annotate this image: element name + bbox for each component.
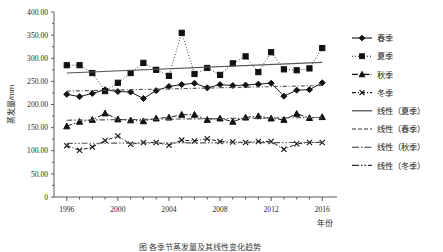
- diamond-marker: [89, 90, 95, 96]
- square-marker: [360, 54, 365, 59]
- square-marker: [243, 54, 248, 59]
- y-tick-label: 250.00: [27, 77, 48, 86]
- y-tick-label: 100.00: [27, 146, 48, 155]
- diamond-marker: [359, 35, 365, 41]
- square-marker: [166, 73, 171, 78]
- legend-label: 冬季: [377, 88, 393, 98]
- diamond-marker: [77, 94, 83, 100]
- cross-marker: [128, 142, 133, 147]
- chart-canvas: 400.00350.00300.00250.00200.00150.00100.…: [0, 0, 443, 252]
- diamond-marker: [140, 95, 146, 101]
- legend-label: 秋季: [377, 70, 393, 80]
- square-marker: [294, 68, 299, 73]
- cross-marker: [281, 147, 286, 152]
- square-marker: [269, 50, 274, 55]
- legend-item-1[interactable]: 春季: [352, 33, 393, 43]
- evaporation-trend-figure: 400.00350.00300.00250.00200.00150.00100.…: [0, 0, 443, 252]
- legend-label: 夏季: [377, 51, 393, 61]
- diamond-marker: [306, 87, 312, 93]
- cross-marker: [102, 138, 107, 143]
- square-marker: [64, 63, 69, 68]
- diamond-marker: [179, 82, 185, 88]
- y-tick-label: 0: [44, 193, 48, 202]
- cross-marker: [179, 138, 184, 143]
- triangle-marker: [294, 111, 300, 117]
- legend-item-7[interactable]: 线性（秋季）: [352, 142, 425, 152]
- legend-item-5[interactable]: 线性（夏季）: [352, 106, 425, 116]
- square-marker: [179, 30, 184, 35]
- square-marker: [102, 88, 107, 93]
- cross-marker: [90, 144, 95, 149]
- square-marker: [77, 63, 82, 68]
- legend-item-6[interactable]: 线性（春季）: [352, 124, 425, 134]
- x-tick-label: 2012: [264, 205, 279, 214]
- diamond-marker: [319, 80, 325, 86]
- figure-caption: 图 各季节蒸发量及其线性变化趋势: [139, 242, 261, 252]
- diamond-marker: [294, 87, 300, 93]
- x-tick-label: 2004: [161, 205, 176, 214]
- legend-item-2[interactable]: 夏季: [352, 51, 393, 61]
- square-marker: [115, 80, 120, 85]
- x-axis-title: 年份: [317, 218, 333, 228]
- y-axis-title: 蒸发量/mm: [6, 84, 16, 124]
- square-marker: [141, 60, 146, 65]
- legend-item-4[interactable]: 冬季: [352, 88, 393, 98]
- square-marker: [230, 61, 235, 66]
- square-marker: [281, 67, 286, 72]
- cross-marker: [115, 133, 120, 138]
- legend-label: 线性（冬季）: [377, 161, 425, 171]
- y-tick-label: 300.00: [27, 54, 48, 63]
- square-marker: [192, 71, 197, 76]
- square-marker: [320, 45, 325, 50]
- triangle-marker: [230, 118, 236, 124]
- legend-item-8[interactable]: 线性（冬季）: [352, 161, 425, 171]
- square-marker: [256, 70, 261, 75]
- square-marker: [205, 65, 210, 70]
- y-tick-label: 50.00: [31, 170, 48, 179]
- triangle-marker: [191, 111, 197, 117]
- y-tick-label: 400.00: [27, 8, 48, 17]
- square-marker: [307, 66, 312, 71]
- x-tick-label: 2016: [315, 205, 330, 214]
- diamond-marker: [64, 91, 70, 97]
- legend-item-3[interactable]: 秋季: [352, 70, 393, 80]
- triangle-marker: [204, 117, 210, 123]
- x-tick-label: 2008: [212, 205, 227, 214]
- square-marker: [128, 70, 133, 75]
- diamond-marker: [192, 80, 198, 86]
- x-tick-label: 2000: [110, 205, 125, 214]
- diamond-marker: [255, 81, 261, 87]
- legend-label: 线性（秋季）: [377, 142, 425, 152]
- y-tick-label: 350.00: [27, 31, 48, 40]
- trendline-4: [67, 142, 322, 143]
- y-tick-label: 200.00: [27, 100, 48, 109]
- square-marker: [217, 72, 222, 77]
- legend-label: 春季: [377, 33, 393, 43]
- square-marker: [90, 70, 95, 75]
- x-tick-label: 1996: [59, 205, 74, 214]
- legend-label: 线性（春季）: [377, 124, 425, 134]
- y-tick-label: 150.00: [27, 123, 48, 132]
- triangle-marker: [102, 110, 108, 116]
- diamond-marker: [217, 82, 223, 88]
- legend-label: 线性（夏季）: [377, 106, 425, 116]
